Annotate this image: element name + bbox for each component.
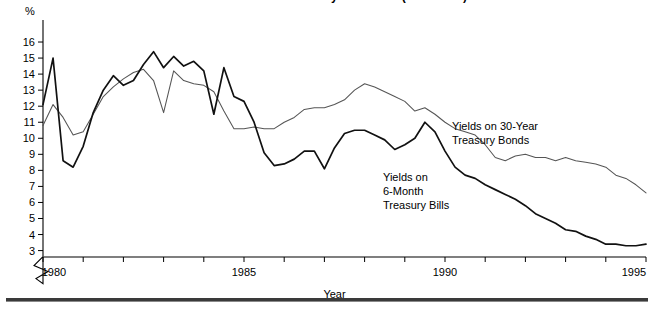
- series-line-6-month-bills: [43, 52, 646, 246]
- annotation-bills-line-1: 6-Month: [383, 185, 423, 197]
- y-tick-label: 10: [23, 132, 35, 144]
- interest-rate-chart: Interest Rates on Treasury Securities (1…: [0, 0, 654, 312]
- y-tick-label: 16: [23, 36, 35, 48]
- chart-title-text: Interest Rates on Treasury Securities (1…: [0, 0, 654, 3]
- y-tick-label: 8: [29, 164, 35, 176]
- annotation-group: Yields on 30-YearTreasury BondsYields on…: [383, 120, 538, 211]
- chart-title-cropped: Interest Rates on Treasury Securities (1…: [0, 0, 654, 3]
- axis-group: [34, 20, 646, 284]
- annotation-bills-line-2: Treasury Bills: [383, 199, 450, 211]
- y-tick-label: 15: [23, 52, 35, 64]
- annotation-bills-line-0: Yields on: [383, 171, 428, 183]
- x-tick-label: 1985: [232, 266, 256, 278]
- y-tick-label: 7: [29, 180, 35, 192]
- series-line-30-year-bonds: [43, 69, 646, 193]
- y-tick-label: 4: [29, 229, 35, 241]
- y-tick-label: 6: [29, 196, 35, 208]
- y-tick-label: 3: [29, 245, 35, 257]
- y-axis-unit-label: %: [25, 5, 35, 17]
- y-tick-label: 14: [23, 68, 35, 80]
- annotation-bonds-line-1: Treasury Bonds: [452, 134, 530, 146]
- y-tick-label: 12: [23, 100, 35, 112]
- x-tick-label: 1980: [42, 266, 66, 278]
- chart-svg: Yields on 30-YearTreasury BondsYields on…: [0, 0, 654, 312]
- x-tick-label: 1990: [433, 266, 457, 278]
- y-tick-label: 13: [23, 84, 35, 96]
- y-tick-label: 9: [29, 148, 35, 160]
- y-tick-label: 11: [24, 116, 35, 128]
- series-group: [43, 52, 646, 246]
- bottom-rule: [6, 298, 648, 302]
- x-tick-label: 1995: [622, 266, 646, 278]
- annotation-bonds-line-0: Yields on 30-Year: [452, 120, 538, 132]
- y-tick-label: 5: [29, 212, 35, 224]
- axis-labels-group: 345678910111213141516%1980198519901995Ye…: [23, 5, 646, 300]
